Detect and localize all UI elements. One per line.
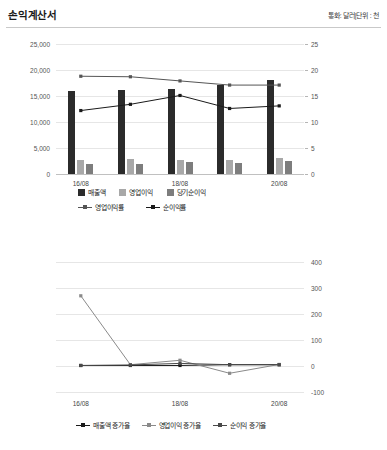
x-axis-tick-label: 18/08 [172,180,188,187]
legend-item: 영업이익 [119,187,152,197]
income-statement-report: 손익계산서 통화: 달러|단위 : 천 매출액영업이익당기순이익 영업이익률순이… [0,0,387,450]
axis-tick-mark [305,96,308,97]
y-axis-left-tick-label: 25,000 [0,41,50,48]
legend-swatch-매출액 [78,189,85,196]
growth-rate-chart: 매출액 증가율영업이익 증가율순이익 증가율 -1000100200300400… [0,252,387,450]
legend-label: 매출액 [88,187,105,197]
legend-label: 영업이익 [129,187,152,197]
legend-line-point [218,423,222,427]
legend-item: 매출액 [78,187,105,197]
legend-label: 매출액 증가율 [93,420,130,430]
header-divider [6,27,381,28]
legend-line-marker-매출액 증가율 [76,422,90,429]
legend-line-point [81,423,85,427]
legend-swatch-영업이익 [119,189,126,196]
legend-line-point [83,205,87,209]
axis-tick-mark [305,174,308,175]
growth-chart-legend: 매출액 증가율영업이익 증가율순이익 증가율 [76,420,278,430]
x-axis-tick-label: 20/08 [271,180,287,187]
legend-line-marker-영업이익 증가율 [142,422,156,429]
income-chart-legend-lines: 영업이익률순이익률 [78,202,208,212]
y-axis-right-tick-label: 200 [311,311,322,318]
y-axis-left-tick-label: 5,000 [0,145,50,152]
y-axis-right-tick-label: 100 [311,337,322,344]
y-axis-right-tick-label: 20 [311,67,318,74]
income-chart-plot-area [56,44,304,174]
legend-line-marker-순이익 증가율 [213,422,227,429]
legend-line-marker-영업이익률 [78,204,92,211]
growth-chart-plot-area [56,262,304,392]
axis-tick-mark [305,70,308,71]
gridline [56,392,304,393]
income-combo-chart: 매출액영업이익당기순이익 영업이익률순이익률 005,000510,000101… [0,32,387,222]
y-axis-right-tick-label: 5 [311,145,315,152]
y-axis-left-tick-label: 10,000 [0,119,50,126]
legend-item: 순이익률 [146,202,186,212]
legend-line-point [147,423,151,427]
x-axis-tick-label: 16/08 [73,400,89,407]
page-title: 손익계산서 [8,7,57,22]
legend-item: 영업이익률 [78,202,124,212]
y-axis-right-tick-label: 10 [311,119,318,126]
y-axis-right-tick-label: -100 [311,389,324,396]
growth-lines-overlay [56,262,304,392]
gridline [56,174,304,175]
currency-unit-note: 통화: 달러|단위 : 천 [328,10,379,20]
legend-label: 순이익 증가율 [230,420,267,430]
axis-tick-mark [305,122,308,123]
axis-tick-mark [305,148,308,149]
legend-line-marker-순이익률 [146,204,160,211]
y-axis-right-tick-label: 0 [311,171,315,178]
legend-item: 매출액 증가율 [76,420,130,430]
x-axis-tick-label: 18/08 [172,400,188,407]
legend-item: 순이익 증가율 [213,420,267,430]
y-axis-right-tick-label: 15 [311,93,318,100]
margin-lines-overlay [56,44,304,174]
income-chart-legend-bars: 매출액영업이익당기순이익 [78,187,220,197]
legend-item: 당기순이익 [167,187,206,197]
legend-label: 당기순이익 [177,187,206,197]
y-axis-right-tick-label: 300 [311,285,322,292]
y-axis-left-tick-label: 20,000 [0,67,50,74]
y-axis-left-tick-label: 0 [0,171,50,178]
legend-label: 순이익률 [163,202,186,212]
y-axis-right-tick-label: 25 [311,41,318,48]
y-axis-right-tick-label: 0 [311,363,315,370]
x-axis-tick-label: 20/08 [271,400,287,407]
legend-label: 영업이익 증가율 [159,420,201,430]
report-header: 손익계산서 통화: 달러|단위 : 천 [0,0,387,28]
legend-item: 영업이익 증가율 [142,420,201,430]
y-axis-left-tick-label: 15,000 [0,93,50,100]
legend-line-point [151,205,155,209]
y-axis-right-tick-label: 400 [311,259,322,266]
legend-label: 영업이익률 [95,202,124,212]
axis-tick-mark [305,44,308,45]
x-axis-tick-label: 16/08 [73,180,89,187]
legend-swatch-당기순이익 [167,189,174,196]
